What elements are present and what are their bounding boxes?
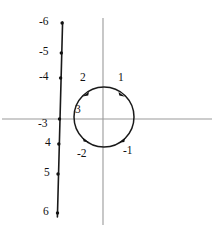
circle-direction-arrows	[83, 92, 126, 143]
label-neg-2: -2	[77, 148, 87, 160]
label-5: 5	[44, 167, 50, 179]
label-neg-5: -5	[39, 46, 49, 58]
label-neg-4: -4	[39, 71, 49, 83]
label-3: 3	[75, 104, 81, 116]
label-1: 1	[118, 72, 124, 84]
line-dot-neg-4	[59, 76, 62, 79]
label-6: 6	[43, 206, 49, 218]
line-dot-neg-6	[60, 21, 63, 24]
line-dot-4	[57, 142, 60, 145]
line-dot-neg-3	[58, 117, 61, 120]
figure-container: -6 -5 -4 -3 4 5 6 3 2 1 -2 -1	[0, 0, 216, 232]
label-neg-1: -1	[123, 145, 133, 157]
line-dot-6	[56, 211, 59, 214]
label-4: 4	[45, 137, 51, 149]
label-neg-3: -3	[38, 118, 48, 130]
label-2: 2	[80, 72, 86, 84]
plot-canvas	[0, 0, 216, 232]
label-neg-6: -6	[39, 16, 49, 28]
circle-curve	[74, 87, 134, 147]
line-dot-neg-5	[60, 51, 63, 54]
line-dot-5	[56, 172, 59, 175]
